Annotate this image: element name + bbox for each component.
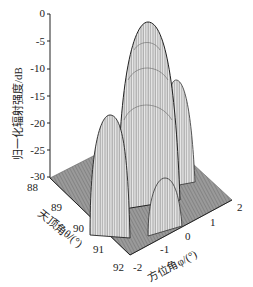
svg-text:91: 91 xyxy=(93,243,104,255)
svg-text:-15: -15 xyxy=(30,90,45,102)
svg-text:-5: -5 xyxy=(36,35,46,47)
svg-text:89: 89 xyxy=(51,201,63,213)
svg-text:0: 0 xyxy=(185,230,191,242)
z-axis-label: 归一化辐射强度/dB xyxy=(11,67,24,160)
svg-text:2: 2 xyxy=(237,201,243,213)
svg-text:-25: -25 xyxy=(30,144,45,156)
svg-text:0: 0 xyxy=(40,7,46,19)
surface-chart: 0 -5 -10 -15 -20 -25 -30 归一化辐射强度/dB 88 8… xyxy=(0,0,253,287)
svg-text:-1: -1 xyxy=(160,243,169,255)
y-axis-label: 方位角φ/(°) xyxy=(145,247,200,285)
svg-text:-20: -20 xyxy=(30,117,45,129)
svg-text:92: 92 xyxy=(113,261,124,273)
svg-text:-2: -2 xyxy=(133,261,142,273)
svg-text:1: 1 xyxy=(210,216,216,228)
z-ticks: 0 -5 -10 -15 -20 -25 -30 xyxy=(30,7,50,182)
svg-text:-10: -10 xyxy=(30,62,45,74)
svg-text:88: 88 xyxy=(27,181,39,193)
